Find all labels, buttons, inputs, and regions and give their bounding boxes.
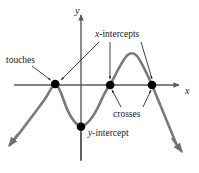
leader-crosses-to-right-cross — [143, 90, 151, 107]
left-tail-arrow-icon — [9, 134, 18, 146]
marker-x-intercept-crosses-middle — [106, 81, 115, 90]
label-y-intercept-rest: -intercept — [92, 128, 128, 138]
marker-y-intercept — [77, 123, 86, 132]
x-axis-label: x — [185, 86, 189, 96]
leader-touches-to-touch-point — [32, 66, 51, 80]
polynomial-intercepts-figure: touches x-intercepts crosses y-intercept… — [0, 0, 199, 173]
leader-xintercepts-to-touch-point — [61, 42, 99, 80]
marker-x-intercept-touches — [51, 80, 60, 89]
label-y-intercept: y-intercept — [88, 129, 129, 139]
label-touches: touches — [6, 56, 35, 66]
label-crosses: crosses — [113, 110, 140, 120]
leader-crosses-to-middle-cross — [112, 90, 121, 107]
label-x-intercepts-rest: -intercepts — [99, 29, 139, 39]
figure-canvas — [0, 0, 199, 173]
marker-x-intercept-crosses-right — [148, 81, 157, 90]
label-x-intercepts: x-intercepts — [95, 30, 139, 40]
y-axis-label: y — [75, 6, 79, 16]
right-tail-arrow-icon — [172, 138, 182, 152]
